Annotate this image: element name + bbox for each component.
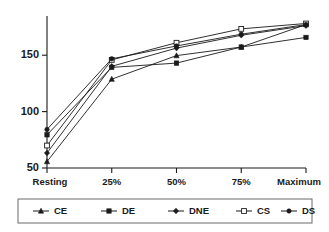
data-point-ds-3 [239,32,243,36]
x-tick-labels-group: Resting 25% 50% 75% Maximum [33,176,321,187]
series-ds [45,22,308,131]
y-tick-label-150: 150 [21,48,39,60]
series-line-de [47,37,306,134]
x-tick-label-25: 25% [102,176,122,187]
legend-label-ce: CE [54,205,67,216]
y-tick-label-50: 50 [27,161,39,173]
axes-group [47,16,306,168]
x-tick-label-75: 75% [232,176,252,187]
line-chart: 150 100 50 Resting 25% 50% 75% Maximum C… [0,0,329,232]
legend-label-ds: DS [302,205,315,216]
chart-figure: 150 100 50 Resting 25% 50% 75% Maximum C… [0,0,329,232]
data-point-cs-0 [45,143,50,148]
data-point-ds-0 [45,127,49,131]
legend-marker-icon-cs [242,209,247,214]
x-tick-label-resting: Resting [33,176,68,187]
data-point-de-2 [174,61,178,65]
legend-label-cs: CS [257,205,270,216]
chart-legend: CEDEDNECSDS [18,199,315,223]
legend-marker-icon-ds [287,209,291,213]
data-point-ds-1 [110,57,114,61]
data-point-ds-4 [304,22,308,26]
y-tick-label-100: 100 [21,105,39,117]
data-point-de-3 [239,45,243,49]
data-point-de-4 [304,35,308,39]
y-tick-labels-group: 150 100 50 [21,48,39,173]
x-ticks-group [47,168,306,173]
legend-label-dne: DNE [189,205,209,216]
series-layer [44,21,308,164]
legend-label-de: DE [122,205,135,216]
data-point-ds-2 [174,44,178,48]
x-tick-label-50: 50% [167,176,187,187]
data-point-de-0 [45,133,49,137]
data-point-cs-3 [239,26,244,31]
legend-marker-icon-de [107,209,111,213]
x-tick-label-maximum: Maximum [277,176,321,187]
series-cs [45,21,309,148]
